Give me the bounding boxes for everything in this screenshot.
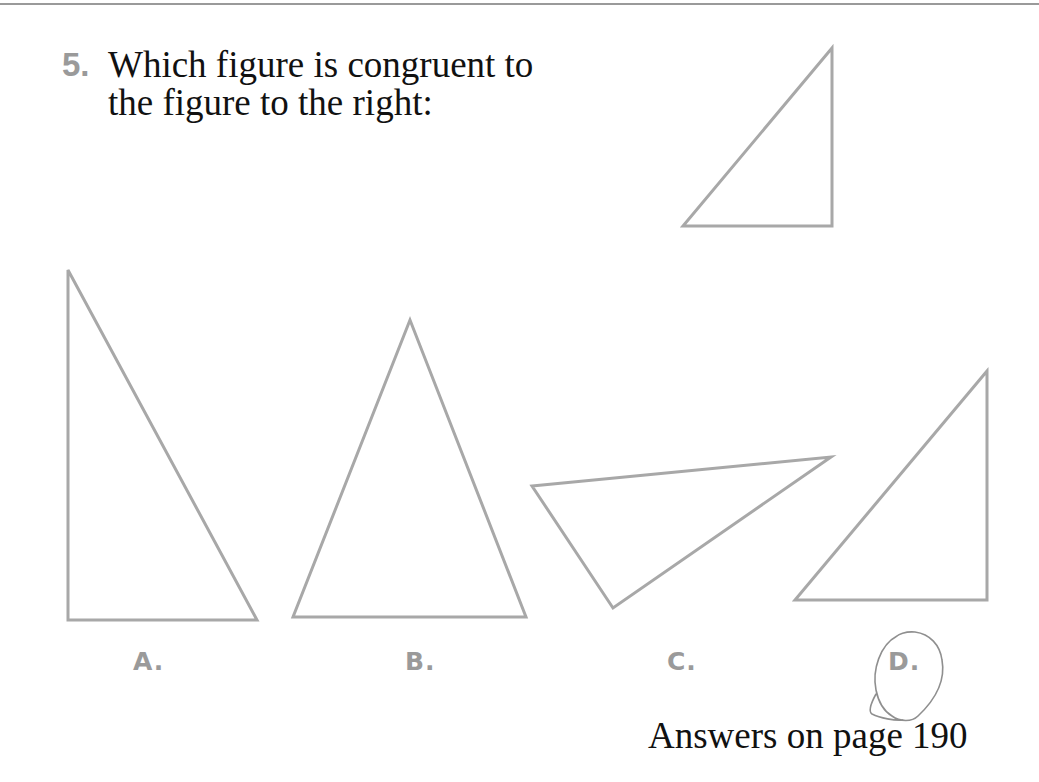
- option-c-label[interactable]: C.: [667, 647, 697, 676]
- reference-triangle: [683, 48, 832, 226]
- option-b-triangle[interactable]: [293, 320, 526, 617]
- option-c-triangle[interactable]: [532, 457, 831, 608]
- option-d-label[interactable]: D.: [888, 647, 920, 676]
- option-d-triangle[interactable]: [795, 371, 987, 600]
- option-a-triangle[interactable]: [68, 270, 257, 620]
- option-b-label[interactable]: B.: [405, 647, 436, 676]
- option-a-label[interactable]: A.: [133, 647, 164, 676]
- answers-reference: Answers on page 190: [648, 714, 968, 757]
